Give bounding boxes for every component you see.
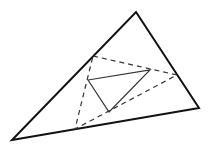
- nested-triangles-diagram: [0, 0, 211, 149]
- outer-triangle: [12, 12, 199, 140]
- dashed-middle-triangle: [75, 56, 177, 129]
- inner-solid-triangle: [88, 70, 150, 112]
